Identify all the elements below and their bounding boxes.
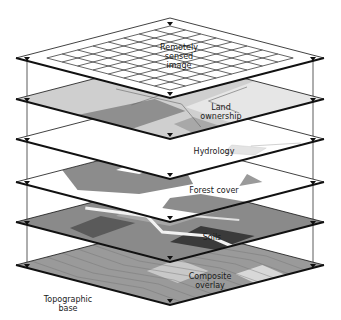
label-hydrology: Hydrology xyxy=(194,147,235,156)
label-topographic-base: Topographic base xyxy=(44,295,92,313)
label-composite-overlay: Composite overlay xyxy=(189,272,232,290)
label-remotely-sensed-image: Remotely sensed image xyxy=(160,43,198,70)
gis-layer-diagram: Remotely sensed image Land ownership Hyd… xyxy=(0,0,341,320)
label-forest-cover: Forest cover xyxy=(189,186,238,195)
label-land-ownership: Land ownership xyxy=(200,103,241,121)
label-soils: Soils xyxy=(203,233,222,242)
